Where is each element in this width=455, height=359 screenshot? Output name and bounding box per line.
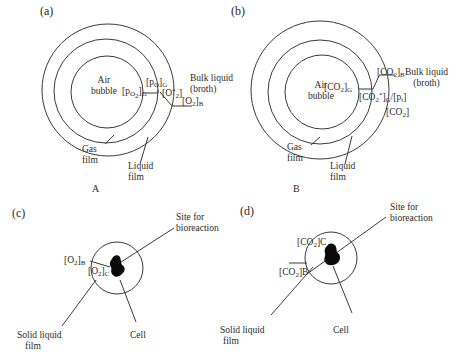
c-site-label: Site for bioreaction <box>176 212 219 233</box>
d-pointer-cell <box>333 266 352 313</box>
a-o2-bulk-label: [O2]B <box>182 96 203 107</box>
c-cell-shape <box>110 255 125 277</box>
b-co2-gas-label: [CO2]G <box>324 82 352 93</box>
c-pointer-film <box>62 280 96 326</box>
b-pointer-co2-bulk-diag <box>373 76 379 89</box>
b-liquid-text: Liquid <box>330 161 355 172</box>
c-pointer-site <box>118 228 174 264</box>
b-pointer-liquid-film <box>345 136 352 164</box>
c-o2-bulk-label: [O2]B <box>64 255 85 266</box>
b-liquid-film-label: Liquid film <box>330 161 355 182</box>
c-solid-liquid-film-label: Solid liquid film <box>17 330 62 351</box>
c-solid-liquid-text: Solid liquid <box>17 330 62 341</box>
b-gas-film-label: Gas film <box>287 142 303 163</box>
d-co2-bulk-label: [CO2]B <box>279 267 308 278</box>
b-film-text: film <box>287 153 303 164</box>
d-cell-shape <box>324 243 340 265</box>
a-o2-star-label: [O*2] <box>162 88 182 99</box>
c-bioreaction-text: bioreaction <box>176 223 219 234</box>
d-solid-liquid-text: Solid liquid <box>220 325 265 336</box>
b-liquid-film-text: film <box>330 172 355 183</box>
a-bubble-label: bubble <box>91 86 117 97</box>
b-co2-bulk-label: [CO2]B <box>377 67 405 78</box>
a-air-label: Air <box>91 75 117 86</box>
d-cell-label: Cell <box>333 325 349 336</box>
a-film-text: film <box>82 155 98 166</box>
a-broth-text: (broth) <box>190 84 233 95</box>
c-film-text: film <box>17 341 62 352</box>
d-site-label: Site for bioreaction <box>390 202 433 223</box>
d-solid-liquid-film-label: Solid liquid film <box>220 325 265 346</box>
a-liquid-film-text: film <box>128 172 153 183</box>
a-air-bubble-label: Air bubble <box>91 75 117 96</box>
a-caption: A <box>92 183 99 194</box>
d-film-text: film <box>220 336 265 347</box>
a-gas-film-label: Gas film <box>82 144 98 165</box>
a-pO2-gas-label: [pO2]G <box>122 86 147 97</box>
a-liquid-film-label: Liquid film <box>128 161 153 182</box>
c-pointer-cell <box>120 280 136 322</box>
d-co2-cell-label: [CO2]C <box>297 237 326 248</box>
diagram-canvas <box>0 0 455 359</box>
a-bulk-liquid-text: Bulk liquid <box>190 73 233 84</box>
b-co2-star-label: [CO2*]G/[pt] <box>359 92 406 103</box>
b-broth-text: (broth) <box>405 78 448 89</box>
b-bulk-liquid-label: Bulk liquid (broth) <box>405 67 448 88</box>
a-pointer-liquid-film <box>140 137 148 164</box>
b-co2-label: [CO2] <box>386 107 409 118</box>
d-site-for-text: Site for <box>390 202 433 213</box>
c-cell-label: Cell <box>130 330 146 341</box>
a-gas-text: Gas <box>82 144 98 155</box>
c-panel-tag: (c) <box>12 206 25 221</box>
b-bulk-liquid-text: Bulk liquid <box>405 67 448 78</box>
b-gas-text: Gas <box>287 142 303 153</box>
a-panel-tag: (a) <box>40 4 53 19</box>
b-caption: B <box>293 183 300 194</box>
a-pO-interface-label: [pO]G <box>146 77 167 88</box>
a-liquid-text: Liquid <box>128 161 153 172</box>
d-bioreaction-text: bioreaction <box>390 213 433 224</box>
c-o2-cell-label: [O2]C <box>88 266 109 277</box>
a-bulk-liquid-label: Bulk liquid (broth) <box>190 73 233 94</box>
c-site-for-text: Site for <box>176 212 219 223</box>
d-panel-tag: (d) <box>240 204 254 219</box>
b-panel-tag: (b) <box>231 4 245 19</box>
